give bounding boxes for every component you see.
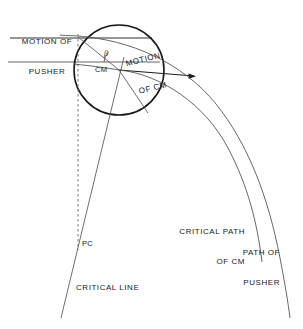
critical-line-label: CRITICAL LINE [76,283,139,293]
path-of-pusher-line1: PATH OF [232,248,280,258]
path-of-pusher-label: PATH OF PUSHER [232,228,280,308]
motion-of-cm-line2: OF CM [132,73,197,98]
motion-of-pusher-line2: PUSHER [8,67,86,77]
motion-of-pusher-line1: MOTION OF [8,37,86,47]
beta-angle-label: β [104,49,108,59]
pc-label: PC [82,239,93,249]
motion-of-cm-line1: MOTION [125,44,190,69]
motion-of-pusher-label: MOTION OF PUSHER [8,17,86,97]
path-of-pusher-line2: PUSHER [232,278,280,288]
cm-label: CM [95,65,107,75]
pusher-disk-mechanics-diagram: MOTION OF PUSHER MOTION OF CM β CM PC CR… [0,0,303,329]
